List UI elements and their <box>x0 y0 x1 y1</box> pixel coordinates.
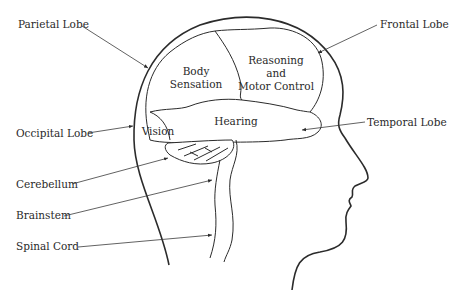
label-occipital-lobe: Occipital Lobe <box>16 127 93 139</box>
leader-brainstem <box>64 180 212 216</box>
brainstem-back <box>210 160 220 258</box>
label-brainstem: Brainstem <box>16 209 71 221</box>
cerebellum <box>165 140 234 164</box>
label-temporal-lobe: Temporal Lobe <box>367 116 447 128</box>
brain-diagram: Body Sensation Reasoning and Motor Contr… <box>0 0 451 300</box>
brainstem-front <box>224 140 237 262</box>
region-label-and: and <box>266 67 286 79</box>
region-label-motor-control: Motor Control <box>238 80 315 92</box>
region-label-body: Body <box>183 65 210 77</box>
region-label-hearing: Hearing <box>214 115 258 127</box>
leader-frontal <box>318 25 377 53</box>
leader-spinal-cord <box>78 235 212 247</box>
leader-cerebellum <box>72 158 168 184</box>
leader-parietal <box>82 26 148 68</box>
label-parietal-lobe: Parietal Lobe <box>18 18 89 30</box>
label-spinal-cord: Spinal Cord <box>16 240 79 252</box>
region-label-sensation: Sensation <box>170 78 223 90</box>
region-label-reasoning: Reasoning <box>248 54 304 66</box>
leader-occipital <box>88 126 133 133</box>
label-cerebellum: Cerebellum <box>16 178 78 190</box>
label-frontal-lobe: Frontal Lobe <box>380 18 449 30</box>
region-label-vision: Vision <box>141 125 175 137</box>
